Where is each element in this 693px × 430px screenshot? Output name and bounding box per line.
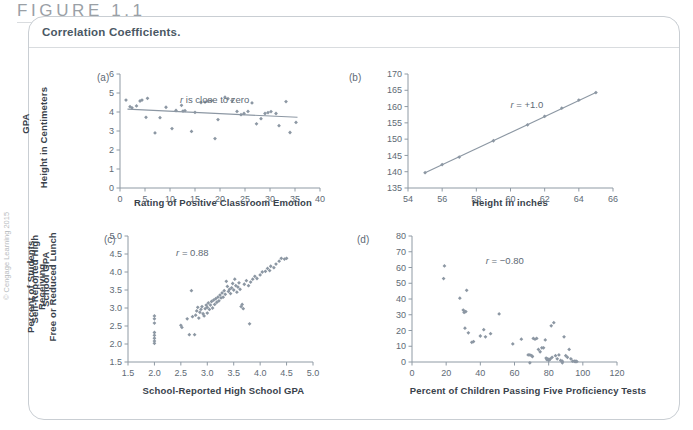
- y-tick-label: 30: [396, 310, 406, 320]
- y-tick-label: 5: [109, 88, 114, 98]
- data-point: [237, 281, 241, 285]
- correlation-annotation-b: r = +1.0: [511, 99, 544, 110]
- x-tick-label: 0: [117, 194, 122, 204]
- data-point: [223, 292, 227, 296]
- data-point: [124, 98, 128, 102]
- correlation-annotation-a: r is close to zero: [180, 94, 249, 105]
- y-tick-label: 4.5: [109, 249, 122, 259]
- y-tick-label: 4.0: [109, 267, 122, 277]
- x-tick-label: 80: [544, 368, 554, 378]
- data-point: [274, 262, 278, 266]
- y-tick-label: 2.5: [109, 321, 122, 331]
- data-point: [594, 91, 598, 95]
- panel-letter-d: (d): [357, 234, 369, 245]
- data-point: [135, 104, 139, 108]
- x-tick-label: 2.5: [175, 368, 188, 378]
- x-tick-label: 54: [403, 194, 413, 204]
- x-tick-label: 10: [165, 194, 175, 204]
- x-axis-title-d: Percent of Children Passing Five Profici…: [388, 385, 668, 396]
- y-tick-label: 80: [396, 231, 406, 241]
- y-tick-label: 1: [109, 164, 114, 174]
- x-tick-label: 25: [240, 194, 250, 204]
- y-tick-label: 160: [387, 102, 402, 112]
- data-point: [259, 117, 263, 121]
- x-tick-label: 120: [609, 368, 624, 378]
- plot-area-c: 1.52.02.53.03.54.04.55.01.52.02.53.03.54…: [98, 232, 317, 384]
- data-point: [185, 317, 189, 321]
- x-axis-title-c: School-Reported High School GPA: [116, 385, 331, 396]
- data-point: [153, 131, 157, 135]
- x-tick-label: 15: [190, 194, 200, 204]
- data-point: [269, 110, 273, 114]
- data-point: [562, 335, 566, 339]
- data-point: [153, 321, 157, 325]
- y-tick-label: 165: [387, 85, 402, 95]
- data-point: [248, 322, 252, 326]
- data-point: [489, 332, 493, 336]
- data-point: [288, 131, 292, 135]
- data-point: [543, 338, 547, 342]
- data-point: [258, 273, 262, 277]
- data-point: [272, 266, 276, 270]
- y-tick-label: 3.0: [109, 303, 122, 313]
- x-tick-label: 100: [575, 368, 590, 378]
- x-tick-label: 66: [608, 194, 618, 204]
- y-tick-label: 0: [109, 183, 114, 193]
- y-tick-label: 2: [109, 145, 114, 155]
- data-point: [567, 348, 571, 352]
- x-tick-label: 5: [142, 194, 147, 204]
- y-tick-label: 3: [109, 126, 114, 136]
- data-point: [153, 317, 157, 321]
- y-tick-label: 150: [387, 134, 402, 144]
- data-point: [196, 305, 200, 309]
- x-tick-label: 1.5: [122, 368, 135, 378]
- x-tick-label: 40: [315, 194, 325, 204]
- data-point: [269, 264, 273, 268]
- data-point: [170, 127, 174, 131]
- y-tick-label: 70: [396, 247, 406, 257]
- figure-caption: Correlation Coefficients.: [42, 26, 181, 38]
- y-tick-label: 5.0: [109, 231, 122, 241]
- x-tick-label: 0: [409, 368, 414, 378]
- data-point: [557, 353, 561, 357]
- data-point: [549, 324, 553, 328]
- plot-area-b: 13514014515015516016517054565860626466r …: [378, 70, 617, 210]
- data-point: [463, 326, 467, 330]
- data-point: [264, 269, 268, 273]
- data-point: [465, 288, 469, 292]
- data-point: [187, 333, 191, 337]
- x-tick-label: 4.5: [280, 368, 293, 378]
- data-point: [213, 137, 217, 141]
- y-tick-label: 50: [396, 278, 406, 288]
- data-point: [197, 316, 201, 320]
- x-tick-label: 35: [290, 194, 300, 204]
- x-tick-label: 3.5: [227, 368, 240, 378]
- y-tick-label: 20: [396, 326, 406, 336]
- data-point: [249, 280, 253, 284]
- data-point: [511, 342, 515, 346]
- y-tick-label: 4: [109, 107, 114, 117]
- data-point: [164, 105, 168, 109]
- y-tick-label: 60: [396, 263, 406, 273]
- data-point: [277, 259, 281, 263]
- data-point: [216, 118, 220, 122]
- data-point: [528, 361, 532, 365]
- data-point: [519, 337, 523, 341]
- data-point: [277, 124, 281, 128]
- x-tick-label: 58: [471, 194, 481, 204]
- data-point: [193, 110, 197, 114]
- data-point: [233, 277, 237, 281]
- data-point: [242, 282, 246, 286]
- data-point: [153, 341, 157, 345]
- data-point: [482, 328, 486, 332]
- data-point: [260, 270, 264, 274]
- data-point: [146, 96, 150, 100]
- data-point: [458, 296, 462, 300]
- data-point: [274, 112, 278, 116]
- x-tick-label: 3.0: [201, 368, 214, 378]
- panel-letter-b: (b): [349, 72, 361, 83]
- correlation-annotation-c: r = 0.88: [176, 247, 209, 258]
- data-point: [225, 285, 229, 289]
- y-tick-label: 2.0: [109, 339, 122, 349]
- data-point: [294, 121, 298, 125]
